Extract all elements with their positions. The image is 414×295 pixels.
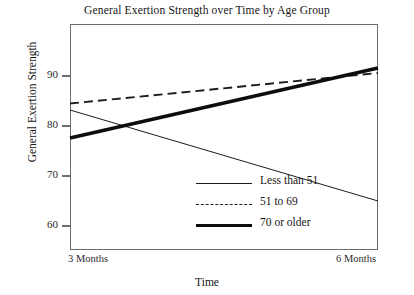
chart-title: General Exertion Strength over Time by A… [0,4,414,16]
legend-label: Less than 51 [260,174,318,186]
legend-item-70-or-older: 70 or older [196,215,372,236]
y-tick-label: 80 [30,118,58,130]
y-tick-mark [62,75,70,76]
legend-swatch-thick-line-icon [196,224,252,227]
legend-label: 70 or older [260,216,310,228]
chart-container: General Exertion Strength over Time by A… [0,0,414,295]
legend-swatch-dashed-line-icon [196,204,252,205]
series-line [70,68,378,138]
legend-item-51-to-69: 51 to 69 [196,194,372,215]
y-tick-label: 60 [30,218,58,230]
chart-legend: Less than 51 51 to 69 70 or older [196,173,372,236]
x-tick-label-3-months: 3 Months [68,253,108,264]
x-tick-label-6-months: 6 Months [336,253,376,264]
y-tick-mark [62,125,70,126]
y-tick-label: 90 [30,68,58,80]
y-tick-mark [62,225,70,226]
legend-swatch-thin-line-icon [196,183,252,184]
legend-item-less-than-51: Less than 51 [196,173,372,194]
legend-label: 51 to 69 [260,195,298,207]
x-axis-title: Time [0,276,414,288]
y-tick-label: 70 [30,168,58,180]
y-tick-mark [62,175,70,176]
